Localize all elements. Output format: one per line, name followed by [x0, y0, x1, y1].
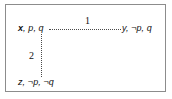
world-node-x: x, p, q — [18, 23, 44, 33]
world-valuation-x: , p, q — [23, 23, 44, 33]
world-node-y: y, ¬p, q — [122, 23, 152, 33]
figure-frame: 1 2 x, p, q y, ¬p, q z, ¬p, ¬q — [5, 4, 166, 92]
relation-edge-label-1: 1 — [85, 16, 90, 26]
relation-edge-horizontal — [49, 29, 121, 30]
world-valuation-y: , ¬p, q — [126, 23, 152, 33]
relation-edge-vertical — [41, 34, 42, 77]
world-node-z: z, ¬p, ¬q — [18, 77, 54, 87]
relation-edge-label-2: 2 — [29, 51, 34, 61]
world-valuation-z: , ¬p, ¬q — [23, 77, 54, 87]
